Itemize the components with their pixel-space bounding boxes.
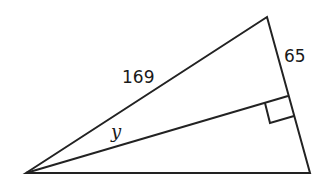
- side-label-169: 169: [122, 67, 154, 87]
- right-angle-marker: [265, 103, 294, 123]
- triangle-diagram: 169 65 y: [0, 0, 325, 178]
- side-label-65: 65: [284, 46, 306, 66]
- angle-label-y: y: [110, 121, 122, 142]
- outer-triangle: [26, 17, 310, 173]
- altitude-line: [26, 96, 288, 173]
